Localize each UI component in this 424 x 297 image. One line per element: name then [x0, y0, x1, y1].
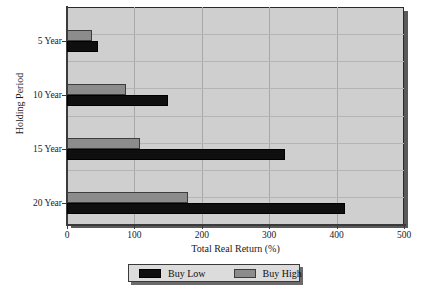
bar-buy-high — [67, 192, 188, 203]
bar-buy-low — [67, 203, 345, 214]
x-axis-title: Total Real Return (%) — [67, 243, 404, 254]
gridline-horizontal — [67, 61, 404, 62]
legend-item-buy-high: Buy High — [234, 265, 302, 281]
bar-buy-high — [67, 30, 92, 41]
black-swatch-icon — [139, 269, 161, 278]
bar-buy-low — [67, 41, 98, 52]
y-tick-label: 15 Year — [33, 144, 62, 154]
chart-legend: Buy Low Buy High — [128, 264, 300, 282]
bar-buy-high — [67, 84, 126, 95]
x-tick-label: 100 — [127, 230, 141, 240]
x-tick — [269, 225, 270, 229]
x-tick-label: 0 — [65, 230, 70, 240]
x-tick-label: 300 — [262, 230, 276, 240]
legend-label: Buy Low — [168, 268, 206, 279]
legend-item-buy-low: Buy Low — [139, 265, 206, 281]
bar-buy-low — [67, 149, 285, 160]
x-tick — [337, 225, 338, 229]
y-tick-label: 10 Year — [33, 90, 62, 100]
bar-buy-high — [67, 138, 140, 149]
gridline-horizontal — [67, 170, 404, 171]
y-tick-label: 20 Year — [33, 198, 62, 208]
x-tick-label: 400 — [329, 230, 343, 240]
x-axis-line — [66, 224, 406, 226]
legend-label: Buy High — [263, 268, 302, 279]
chart-figure: 0100200300400500 5 Year10 Year15 Year20 … — [0, 0, 424, 297]
x-tick — [134, 225, 135, 229]
gridline-horizontal — [67, 116, 404, 117]
bar-buy-low — [67, 95, 168, 106]
x-tick-label: 200 — [195, 230, 209, 240]
y-tick-label: 5 Year — [38, 36, 62, 46]
x-tick — [202, 225, 203, 229]
x-tick — [67, 225, 68, 229]
x-tick-label: 500 — [397, 230, 411, 240]
y-axis-title: Holding Period — [14, 44, 25, 164]
gridline-horizontal — [67, 34, 404, 35]
gray-swatch-icon — [234, 269, 256, 278]
x-tick — [404, 225, 405, 229]
